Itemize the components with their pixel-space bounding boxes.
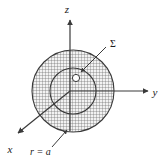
x-axis-label: x <box>7 143 13 155</box>
diagram-canvas: z y x Σ r = a <box>0 0 166 162</box>
surface-element-marker <box>72 74 79 81</box>
sigma-label: Σ <box>110 38 116 49</box>
radius-leader-line <box>52 130 67 147</box>
physics-diagram-figure: z y x Σ r = a <box>0 0 166 162</box>
z-axis-label: z <box>64 3 70 15</box>
radius-label: r = a <box>30 146 51 157</box>
y-axis-label: y <box>152 86 158 98</box>
